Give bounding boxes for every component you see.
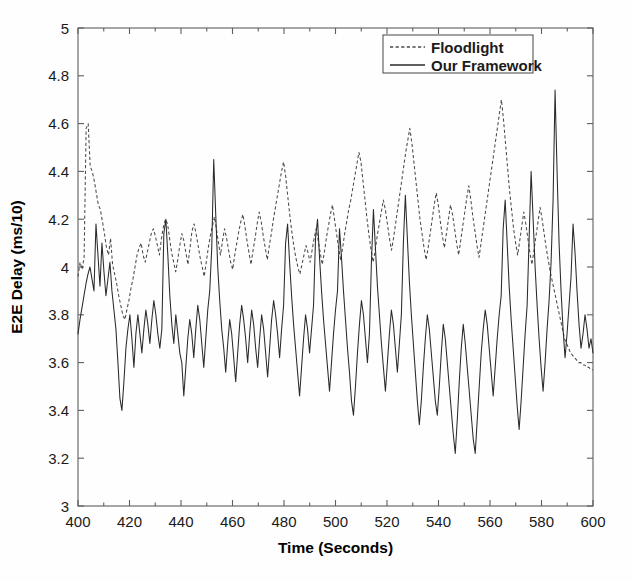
x-tick-label: 560 [477, 513, 502, 530]
x-tick-label: 580 [529, 513, 554, 530]
e2e-delay-line-chart: 40042044046048050052054056058060033.23.4… [0, 0, 632, 581]
y-axis-title: E2E Delay (ms/10) [8, 200, 25, 334]
x-tick-label: 540 [426, 513, 451, 530]
x-tick-label: 500 [323, 513, 348, 530]
legend-label-floodlight: Floodlight [431, 39, 503, 56]
chart-legend: FloodlightOur Framework [383, 35, 543, 74]
series-line-floodlight [78, 100, 593, 370]
y-tick-label: 3.2 [48, 450, 69, 467]
y-tick-label: 3.8 [48, 306, 69, 323]
x-tick-label: 420 [117, 513, 142, 530]
x-tick-label: 400 [65, 513, 90, 530]
y-tick-label: 4.6 [48, 115, 69, 132]
y-tick-label: 3 [61, 498, 69, 515]
y-tick-label: 5 [61, 20, 69, 37]
x-tick-label: 600 [580, 513, 605, 530]
y-tick-label: 3.6 [48, 354, 69, 371]
y-tick-label: 4 [61, 259, 69, 276]
x-tick-label: 460 [220, 513, 245, 530]
x-tick-label: 440 [168, 513, 193, 530]
legend-label-our-framework: Our Framework [431, 57, 543, 74]
figure-canvas: 40042044046048050052054056058060033.23.4… [0, 0, 632, 581]
y-tick-label: 3.4 [48, 402, 69, 419]
plot-area-border [78, 28, 593, 506]
x-axis-title: Time (Seconds) [278, 539, 393, 556]
y-tick-label: 4.8 [48, 67, 69, 84]
tick-label-group: 40042044046048050052054056058060033.23.4… [48, 20, 605, 531]
series-line-our-framework [78, 90, 593, 453]
y-tick-label: 4.4 [48, 163, 69, 180]
tick-marks [78, 28, 593, 506]
axis-frame [78, 28, 593, 506]
x-tick-label: 480 [271, 513, 296, 530]
y-tick-label: 4.2 [48, 211, 69, 228]
plot-series-group [78, 90, 593, 453]
x-tick-label: 520 [374, 513, 399, 530]
